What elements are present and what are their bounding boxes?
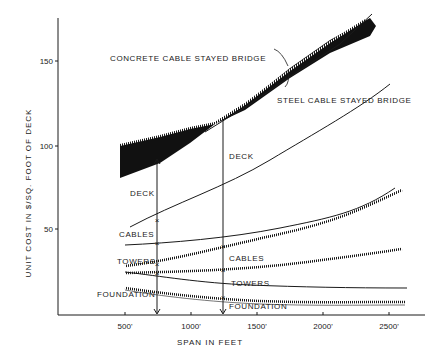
label-deck-left: DECK: [130, 189, 155, 198]
y-tick-100: 100: [40, 142, 54, 151]
svg-text:×: ×: [221, 242, 226, 251]
x-tick-500: 500': [118, 322, 133, 331]
label-cables-left: CABLES: [119, 230, 154, 239]
concrete-leader: [274, 49, 288, 66]
cables-steel-line: [125, 188, 395, 245]
label-concrete: CONCRETE CABLE STAYED BRIDGE: [110, 54, 266, 63]
foundation-concrete-line: [125, 288, 405, 302]
svg-text:×: ×: [155, 269, 160, 278]
svg-text:×: ×: [155, 239, 160, 248]
marker-1250: × × ×: [220, 119, 226, 314]
label-cables-right: CABLES: [229, 254, 264, 263]
x-tick-2000: 2000': [313, 322, 333, 331]
y-axis-title: UNIT COST IN $/SQ. FOOT OF DECK: [24, 109, 33, 278]
label-foundation-left: FOUNDATION: [97, 290, 155, 299]
svg-text:×: ×: [155, 216, 160, 225]
label-foundation-right: FOUNDATION: [229, 302, 287, 311]
x-tick-1000: 1000': [181, 322, 201, 331]
cost-vs-span-chart: 150 100 50 500' 1000' 1500' 2000' 2500' …: [0, 0, 445, 364]
label-towers-right: TOWERS: [231, 279, 270, 288]
svg-text:×: ×: [221, 293, 226, 302]
label-deck-right: DECK: [229, 152, 254, 161]
y-tick-50: 50: [44, 225, 53, 234]
y-tick-150: 150: [40, 57, 54, 66]
label-steel: STEEL CABLE STAYED BRIDGE: [277, 96, 411, 105]
x-axis-title: SPAN IN FEET: [177, 338, 243, 347]
svg-text:×: ×: [221, 266, 226, 275]
label-towers-left: TOWERS: [117, 257, 156, 266]
x-tick-1500: 1500': [247, 322, 267, 331]
x-tick-2500: 2500': [379, 322, 399, 331]
